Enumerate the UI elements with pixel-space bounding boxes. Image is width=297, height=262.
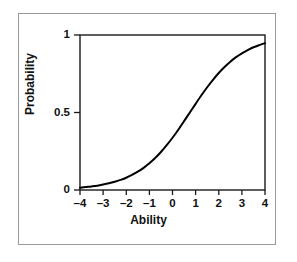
x-axis-ticks	[80, 190, 265, 195]
axes-box	[80, 35, 265, 190]
x-tick-label-4: 4	[251, 197, 279, 209]
y-tick-label-0: 0	[36, 183, 70, 195]
y-tick-label-1: 1	[36, 28, 70, 40]
y-axis-ticks	[74, 35, 80, 190]
chart-plot-area: 1 0.5 0 –4 –3 –2 –1 0 1 2 3 4 Ability Pr…	[0, 0, 297, 262]
y-tick-label-0point5: 0.5	[36, 106, 70, 118]
y-axis-title: Probability	[23, 24, 37, 144]
x-axis-title: Ability	[0, 213, 297, 227]
probability-curve	[80, 43, 265, 187]
